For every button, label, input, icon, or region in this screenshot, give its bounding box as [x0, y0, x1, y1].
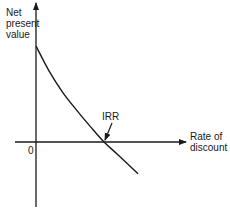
y-axis-label-line1: Net	[6, 7, 22, 18]
x-axis-label-line2: discount	[190, 142, 227, 153]
irr-label: IRR	[102, 111, 119, 122]
y-axis-label-line2: present	[6, 18, 40, 29]
irr-arrow	[105, 123, 112, 140]
origin-label: 0	[28, 145, 34, 156]
npv-chart: Net present value Rate of discount 0 IRR	[0, 0, 230, 212]
y-axis-label-line3: value	[6, 29, 30, 40]
x-axis-label-line1: Rate of	[190, 131, 222, 142]
npv-curve	[36, 46, 138, 174]
